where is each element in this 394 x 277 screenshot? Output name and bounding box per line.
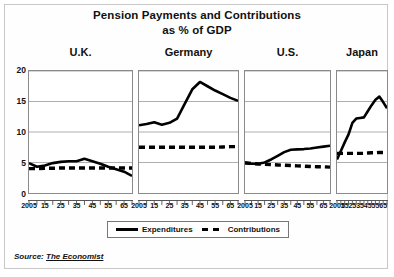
- x-axis-ticks: [28, 194, 133, 202]
- source-name: The Economist: [46, 252, 103, 261]
- panel-title-us: U.S.: [244, 46, 331, 58]
- x-axis-tick-label: 15: [341, 202, 349, 209]
- chart-legend: Expenditures Contributions: [107, 221, 289, 238]
- x-axis-tick-label: 65: [379, 202, 387, 209]
- x-axis-ticks: [244, 194, 331, 202]
- x-axis-tick-label: 15: [150, 202, 158, 209]
- panel-title-japan: Japan: [336, 46, 388, 58]
- x-axis-tick-label: 45: [364, 202, 372, 209]
- source-label: Source:: [14, 252, 44, 261]
- x-axis-tick-labels: 2005152535455565: [244, 202, 331, 213]
- x-axis-tick-label: 35: [280, 202, 288, 209]
- x-axis-tick-labels: 2005152535455565: [336, 202, 388, 213]
- x-axis-tick-labels: 2005152535455565: [138, 202, 239, 213]
- x-axis-ticks: [138, 194, 239, 202]
- chart-panel-us: [244, 70, 331, 194]
- x-axis-tick-label: 65: [226, 202, 234, 209]
- x-axis-tick-label: 55: [211, 202, 219, 209]
- x-axis-tick-label: 45: [293, 202, 301, 209]
- x-axis-tick-label: 55: [372, 202, 380, 209]
- chart-title-line-1: Pension Payments and Contributions: [93, 9, 301, 21]
- x-axis-tick-label: 35: [181, 202, 189, 209]
- legend-label-expenditures: Expenditures: [142, 225, 193, 234]
- panel-title-uk: U.K.: [28, 46, 133, 58]
- chart-title-line-2: as % of GDP: [0, 23, 394, 38]
- legend-label-contributions: Contributions: [228, 225, 280, 234]
- x-axis-tick-label: 55: [104, 202, 112, 209]
- chart-panel-uk: [28, 70, 133, 194]
- y-axis-tick-label: 10: [8, 128, 26, 136]
- x-axis-tick-label: 35: [356, 202, 364, 209]
- chart-panel-japan: [336, 70, 388, 194]
- x-axis-tick-label: 2005: [131, 202, 147, 209]
- x-axis-tick-label: 15: [41, 202, 49, 209]
- x-axis-tick-label: 65: [320, 202, 328, 209]
- x-axis-tick-label: 55: [306, 202, 314, 209]
- x-axis-tick-label: 35: [73, 202, 81, 209]
- panel-title-germany: Germany: [138, 46, 239, 58]
- legend-item-expenditures: Expenditures: [116, 225, 193, 234]
- x-axis-tick-label: 25: [166, 202, 174, 209]
- chart-panel-germany: [138, 70, 239, 194]
- source-note: Source: The Economist: [14, 252, 103, 261]
- x-axis-ticks: [336, 194, 388, 202]
- legend-swatch-dashed-icon: [202, 228, 224, 231]
- legend-item-contributions: Contributions: [202, 225, 280, 234]
- x-axis-tick-label: 25: [348, 202, 356, 209]
- x-axis-tick-label: 45: [88, 202, 96, 209]
- x-axis-tick-label: 25: [267, 202, 275, 209]
- x-axis-tick-label: 25: [57, 202, 65, 209]
- chart-figure: Pension Payments and Contributions as % …: [0, 0, 394, 277]
- x-axis-tick-label: 2005: [21, 202, 37, 209]
- y-axis-tick-label: 15: [8, 97, 26, 105]
- y-axis-tick-label: 0: [8, 190, 26, 198]
- legend-swatch-solid-icon: [116, 228, 138, 231]
- x-axis-tick-label: 2005: [237, 202, 253, 209]
- y-axis: 20151050: [4, 0, 26, 277]
- x-axis-tick-labels: 2005152535455565: [28, 202, 133, 213]
- chart-title: Pension Payments and Contributions as % …: [0, 8, 394, 38]
- x-axis-tick-label: 45: [196, 202, 204, 209]
- y-axis-tick-label: 20: [8, 66, 26, 74]
- x-axis-tick-label: 65: [120, 202, 128, 209]
- y-axis-tick-label: 5: [8, 159, 26, 167]
- x-axis-tick-label: 15: [254, 202, 262, 209]
